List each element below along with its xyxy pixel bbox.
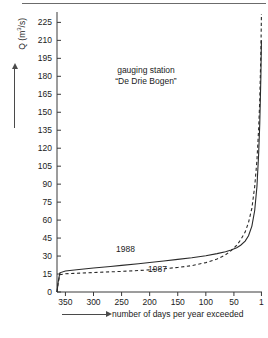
- y-tick-label: 135: [38, 125, 52, 135]
- x-axis-direction-arrow: [62, 314, 108, 315]
- x-tick-label: 350: [58, 297, 72, 307]
- y-tick-label: 105: [38, 161, 52, 171]
- x-tick-label: 250: [114, 297, 128, 307]
- curve-1988: [57, 40, 261, 292]
- y-axis-ticks: 0153045607590105120135150165180195210225: [38, 17, 61, 297]
- y-tick-label: 60: [43, 215, 53, 225]
- y-tick-label: 15: [43, 269, 53, 279]
- y-tick-label: 45: [43, 233, 53, 243]
- y-tick-label: 75: [43, 197, 53, 207]
- y-tick-label: 180: [38, 71, 52, 81]
- y-tick-label: 0: [47, 287, 52, 297]
- y-tick-label: 150: [38, 107, 52, 117]
- y-tick-label: 165: [38, 89, 52, 99]
- y-tick-label: 225: [38, 17, 52, 27]
- x-tick-label: 50: [229, 297, 239, 307]
- x-tick-label: 200: [143, 297, 157, 307]
- y-tick-label: 30: [43, 251, 53, 261]
- y-tick-label: 90: [43, 179, 53, 189]
- y-tick-label: 120: [38, 143, 52, 153]
- x-axis-caption-text: number of days per year exceeded: [112, 309, 243, 319]
- x-tick-label: 100: [199, 297, 213, 307]
- x-tick-label: 150: [171, 297, 185, 307]
- y-tick-label: 210: [38, 35, 52, 45]
- x-tick-label: 1: [259, 297, 264, 307]
- x-tick-label: 300: [86, 297, 100, 307]
- x-axis-ticks: 350300250200150100501: [58, 292, 264, 307]
- curve-1987: [57, 14, 261, 292]
- figure-container: Q (m3/s) gauging station “De Drie Bogen”…: [0, 0, 268, 338]
- y-tick-label: 195: [38, 53, 52, 63]
- x-axis-caption: number of days per year exceeded: [62, 309, 243, 319]
- flow-duration-plot: 0153045607590105120135150165180195210225…: [0, 0, 268, 338]
